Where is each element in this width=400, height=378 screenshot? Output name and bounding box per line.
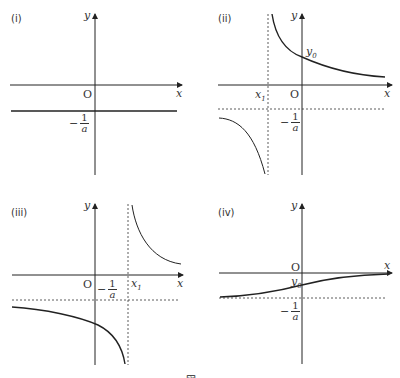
figure-canvas: [0, 0, 400, 378]
panel-iv-y0-label: y0: [291, 276, 302, 290]
panel-iii-origin-label: O: [83, 279, 92, 290]
panel-ii-label: (ii): [218, 14, 231, 24]
panel-ii-graph: [218, 14, 392, 175]
panel-iv-x-axis-label: x: [384, 260, 390, 271]
panel-i-graph: [10, 14, 182, 175]
panel-i-label: (i): [11, 14, 22, 24]
panel-i-neg-inv-a-label: − 1a: [69, 113, 89, 134]
figure-caption: 図: [186, 372, 214, 378]
panel-ii-right-branch: [272, 14, 385, 77]
panel-iii-left-branch: [12, 307, 125, 364]
panel-iv-label: (iv): [218, 208, 235, 218]
panel-iii-y-axis-label: y: [84, 200, 90, 211]
panel-iii-right-branch: [132, 205, 181, 264]
panel-iv-curve: [220, 274, 388, 297]
panel-iv-neg-inv-a-label: − 1a: [280, 301, 300, 322]
panel-i-y-axis-label: y: [84, 10, 90, 21]
panel-iv-origin-label: O: [291, 262, 300, 273]
panel-i-x-axis-label: x: [176, 88, 182, 99]
panel-i-origin-label: O: [83, 89, 92, 100]
panel-ii-y-axis-label: y: [291, 10, 297, 21]
panel-iii-neg-inv-a-label: − 1a: [97, 279, 117, 300]
panel-iii-x-axis-label: x: [177, 278, 183, 289]
panel-ii-x1-label: x1: [255, 89, 266, 103]
panel-ii-neg-inv-a-label: − 1a: [280, 112, 300, 133]
panel-iv-y-axis-label: y: [291, 200, 297, 211]
panel-ii-left-branch: [219, 118, 265, 174]
panel-iv-graph: [219, 204, 392, 364]
panel-ii-x-axis-label: x: [384, 88, 390, 99]
panel-ii-origin-label: O: [290, 89, 299, 100]
panel-iii-x1-label: x1: [131, 278, 142, 292]
panel-iii-label: (iii): [11, 208, 27, 218]
panel-ii-y0-label: y0: [306, 46, 317, 60]
